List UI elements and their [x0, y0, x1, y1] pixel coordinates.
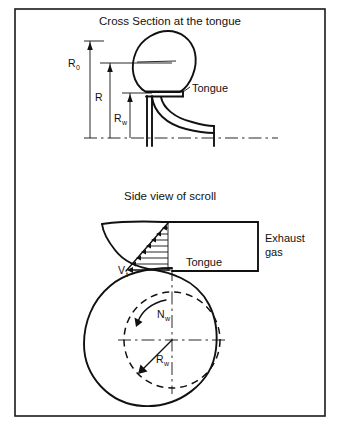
label-exhaust-gas: Exhaust gas: [265, 232, 305, 258]
label-exhaust-line1: Exhaust: [265, 232, 305, 244]
wheel-radius-arrow: [138, 340, 172, 374]
label-r0-sub: 0: [76, 64, 80, 71]
figure-border: [15, 9, 325, 416]
label-rw-upper-base: R: [114, 112, 122, 124]
label-rw-upper-sub: w: [121, 119, 128, 126]
label-rw-upper: R w: [114, 112, 128, 126]
scroll-volute-outline: [84, 268, 217, 406]
r-dimension: [107, 63, 113, 138]
velocity-arrow-3: [151, 238, 168, 243]
r-arrowhead-top: [107, 64, 113, 72]
label-tongue-upper: Tongue: [192, 82, 228, 94]
r0-dimension: [87, 41, 93, 138]
velocity-profile-arrows: [127, 226, 170, 273]
label-vt: V t: [118, 264, 128, 278]
velocity-arrow-5: [141, 250, 168, 255]
duct-upper-wall: [152, 97, 214, 133]
cross-section-drawing: R 0 R R w Tongue: [68, 31, 278, 146]
rw-dimension: [127, 93, 133, 138]
label-nw-base: N: [157, 308, 165, 320]
label-rw-lower-sub: w: [163, 360, 170, 367]
label-r0: R 0: [68, 57, 80, 71]
label-r: R: [95, 91, 103, 103]
label-rw-lower-base: R: [156, 353, 164, 365]
label-rw-lower: R w: [156, 353, 170, 367]
velocity-arrow-6: [136, 256, 168, 261]
figure-root: Cross Section at the tongue: [0, 0, 342, 434]
turbocharger-scroll-diagram: Cross Section at the tongue: [0, 0, 342, 434]
label-vt-base: V: [118, 264, 125, 276]
r0-arrowhead-top: [87, 42, 93, 50]
side-view-title: Side view of scroll: [124, 190, 216, 202]
side-view-drawing: V t Tongue N w R w Exhaust gas: [84, 222, 305, 407]
label-nw-sub: w: [164, 315, 171, 322]
rw-arrowhead-top: [127, 94, 133, 102]
label-nw: N w: [157, 308, 171, 322]
cross-section-title: Cross Section at the tongue: [99, 15, 241, 27]
label-r-base: R: [95, 91, 103, 103]
label-vt-sub: t: [126, 271, 128, 278]
bulb-internal-line: [137, 61, 176, 62]
label-tongue-lower: Tongue: [186, 256, 222, 268]
label-r0-base: R: [68, 57, 76, 69]
label-exhaust-line2: gas: [265, 246, 283, 258]
scroll-top-to-duct: [102, 222, 163, 224]
